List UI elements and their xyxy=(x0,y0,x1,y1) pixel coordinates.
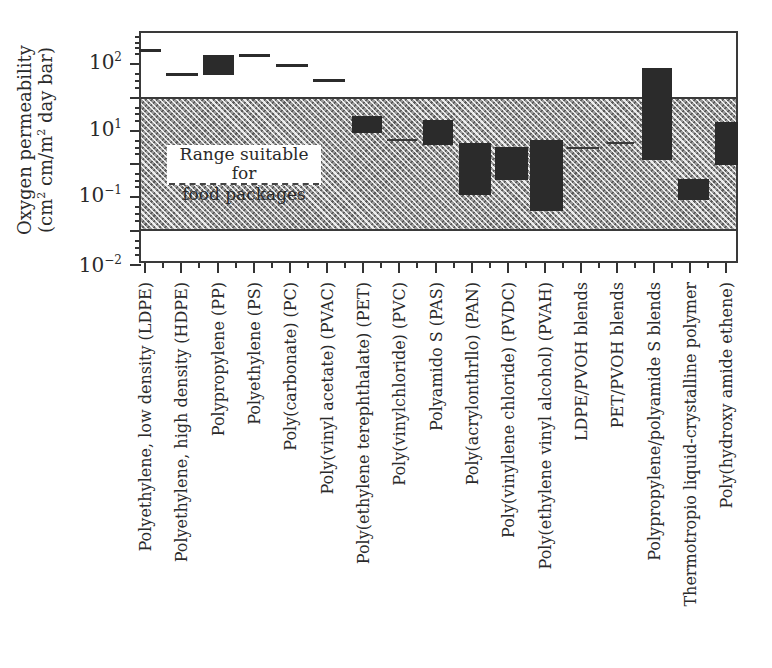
x-label-pc: Poly(carbonate) (PC) xyxy=(281,282,300,451)
x-label-pet: Poly(ethylene terephthalate) (PET) xyxy=(354,282,373,564)
range-pvc xyxy=(387,139,417,141)
plot-area: Range suitable for food packages xyxy=(139,31,738,263)
range-pp-pas-blends xyxy=(642,68,672,160)
x-label-pp-pas-blends: Polypropylene/polyamide S blends xyxy=(645,282,664,561)
y-axis-title-line1: Oxygen permeability xyxy=(14,30,35,250)
x-label-pas: Polyamido S (PAS) xyxy=(427,282,446,431)
x-label-thermotropic-lcp: Thermotropio liquid-crystalline polymer xyxy=(681,282,700,607)
x-label-pet-pvoh-blends: PET/PVOH blends xyxy=(608,282,627,428)
range-pet-pvoh-blends xyxy=(607,142,634,144)
range-annotation-line1: Range suitable for xyxy=(167,145,321,183)
x-label-pp: Polypropylene (PP) xyxy=(209,282,228,436)
y-tick-label-1e-2: 10−2 xyxy=(72,253,122,277)
range-pas xyxy=(423,120,453,145)
y-tick-label-1e-1: 10−1 xyxy=(72,183,122,207)
x-label-ldpe: Polyethylene, low density (LDPE) xyxy=(136,282,155,552)
range-pvah xyxy=(530,140,563,211)
range-ldpe xyxy=(139,49,161,52)
y-axis-title: Oxygen permeability (cm2 cm/m2 day bar) xyxy=(14,30,56,250)
x-label-pan: Poly(acrylonthrllo) (PAN) xyxy=(463,282,482,485)
x-label-pvc: Poly(vinylchloride) (PVC) xyxy=(390,282,409,486)
range-pc xyxy=(276,64,308,67)
range-pvdc xyxy=(495,147,528,180)
y-tick-label-1e1: 101 xyxy=(72,117,122,141)
y-axis-title-line2: (cm2 cm/m2 day bar) xyxy=(35,30,56,250)
x-label-ldpe-pvoh-blends: LDPE/PVOH blends xyxy=(572,282,591,441)
x-label-pvdc: Poly(vinyllene chloride) (PVDC) xyxy=(499,282,518,538)
range-poly-hydroxy-amide-ethene xyxy=(715,122,738,165)
range-pp xyxy=(203,55,234,75)
range-hdpe xyxy=(166,73,198,76)
x-label-hdpe: Polyethylene, high density (HDPE) xyxy=(172,282,191,562)
range-annotation-line2: food packages xyxy=(167,185,321,204)
x-label-ps: Polyethylene (PS) xyxy=(245,282,264,425)
range-pan xyxy=(459,143,491,195)
y-tick-label-1e2: 102 xyxy=(72,50,122,74)
x-label-poly-hydroxy-amide-ethene: Poly(hydroxy amide ethene) xyxy=(717,282,736,508)
range-ps xyxy=(239,54,270,57)
range-pvac xyxy=(313,79,345,82)
x-label-pvah: Poly(ethylene vinyl alcohol) (PVAH) xyxy=(536,282,555,569)
x-label-pvac: Poly(vinyl acetate) (PVAC) xyxy=(318,282,337,495)
range-pet xyxy=(352,116,382,133)
range-annotation: Range suitable for food packages xyxy=(167,145,321,185)
range-ldpe-pvoh-blends xyxy=(567,147,599,149)
range-thermotropic-lcp xyxy=(678,179,709,200)
